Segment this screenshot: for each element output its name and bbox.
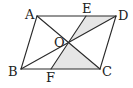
label-f: F (46, 70, 55, 85)
label-b: B (8, 64, 18, 79)
label-c: C (102, 64, 112, 79)
label-a: A (24, 7, 35, 22)
label-e: E (82, 1, 92, 16)
label-d: D (118, 8, 128, 23)
parallelogram-figure: AEDOBFC (0, 0, 133, 88)
geometry-diagram: AEDOBFC (0, 0, 133, 88)
label-o: O (54, 35, 65, 50)
